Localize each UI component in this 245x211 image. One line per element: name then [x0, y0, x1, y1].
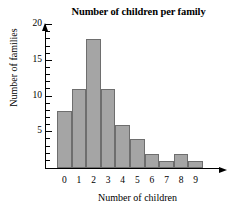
x-axis-tick-label: 7: [164, 176, 169, 186]
y-axis-minor-tick: [46, 46, 50, 47]
y-axis-minor-tick: [46, 31, 50, 32]
chart-title: Number of children per family: [46, 6, 231, 18]
y-axis-major-tick: [46, 24, 52, 25]
bar: [130, 139, 145, 168]
y-axis-label: Number of families: [8, 13, 19, 123]
bar: [115, 125, 130, 168]
x-axis-tick-label: 6: [150, 176, 155, 186]
y-axis-minor-tick: [46, 124, 50, 125]
y-axis-major-tick: [46, 60, 52, 61]
y-axis-minor-tick: [46, 160, 50, 161]
y-axis-minor-tick: [46, 81, 50, 82]
x-axis-tick-label: 0: [62, 176, 67, 186]
y-axis-tick-label: 10: [33, 91, 43, 101]
y-axis-minor-tick: [46, 67, 50, 68]
y-axis-tick-label: 20: [33, 19, 43, 29]
y-axis-tick-label: 5: [37, 127, 42, 137]
bar: [57, 111, 72, 168]
bar: [159, 161, 174, 168]
y-axis-minor-tick: [46, 74, 50, 75]
y-axis-minor-tick: [46, 138, 50, 139]
bar: [72, 89, 87, 168]
x-axis-tick-label: 1: [77, 176, 82, 186]
x-axis-tick-label: 3: [106, 176, 111, 186]
x-axis-tick-label: 5: [135, 176, 140, 186]
bar: [174, 154, 189, 168]
bar: [188, 161, 203, 168]
y-axis-minor-tick: [46, 153, 50, 154]
y-axis-major-tick: [46, 131, 52, 132]
x-axis-tick-label: 9: [193, 176, 198, 186]
y-axis-minor-tick: [46, 103, 50, 104]
bar: [101, 89, 116, 168]
y-axis-minor-tick: [46, 117, 50, 118]
x-axis-tick-label: 2: [91, 176, 96, 186]
y-axis-minor-tick: [46, 110, 50, 111]
bar: [145, 154, 160, 168]
y-axis-minor-tick: [46, 38, 50, 39]
plot-area: 5101520 0123456789: [45, 18, 231, 169]
x-axis-arrow-icon: [219, 167, 227, 173]
x-axis-label: Number of children: [45, 192, 230, 203]
x-axis-line: [45, 168, 221, 169]
y-axis-minor-tick: [46, 146, 50, 147]
y-axis-tick-label: 15: [33, 55, 43, 65]
histogram-chart: Number of children per family Number of …: [0, 0, 245, 211]
y-axis-minor-tick: [46, 88, 50, 89]
bar: [86, 39, 101, 168]
y-axis-major-tick: [46, 96, 52, 97]
x-axis-tick-label: 4: [120, 176, 125, 186]
y-axis-minor-tick: [46, 53, 50, 54]
x-axis-tick-label: 8: [179, 176, 184, 186]
